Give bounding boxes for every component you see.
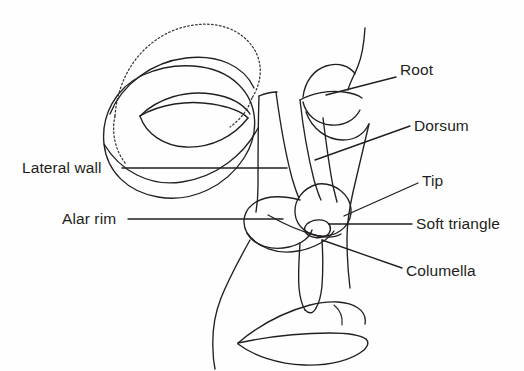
label-lateral-wall: Lateral wall [22,160,102,176]
eye-upper-lid-crease [140,93,250,116]
orbit-outline [104,66,255,198]
label-alar-rim: Alar rim [62,211,116,227]
columella-right-border [316,240,323,308]
soft-triangle-nostril [305,220,331,238]
leader-line-tip [344,183,418,216]
eye-lower-lid-line [140,116,248,147]
far-eye-infraorbital-fold [306,112,369,140]
upper-lip-vermilion-border [238,302,365,343]
label-root: Root [400,62,433,78]
philtrum-lip-tubercle-line [334,305,342,325]
columella-left-border [299,243,305,310]
far-eye-lower-lid [303,102,360,125]
leader-line-dorsum [315,126,410,160]
anatomy-figure: Root Dorsum Tip Soft triangle Columella … [0,0,524,371]
near-cheek-jaw-contour [213,240,250,369]
leader-line-root [326,77,396,95]
orbital-rim-dotted-lateral [114,116,126,164]
label-columella: Columella [406,263,476,279]
anatomy-line-drawing [0,0,524,371]
columella-base [305,308,316,313]
eye-upper-lash-line [140,103,248,119]
nasal-dorsum-ridge-line [323,118,337,202]
lower-lip-vermilion-border [238,339,368,365]
label-dorsum: Dorsum [414,118,469,134]
nasal-root-junction-line [259,92,277,96]
lip-commissure-line [238,333,366,343]
nasal-tip-lobule [295,184,351,236]
infraorbital-contour [104,128,258,183]
label-soft-triangle: Soft triangle [416,216,500,232]
nasal-sidewall-lateral-line [276,92,299,198]
leader-line-columella [322,240,402,268]
forehead-profile-line [348,28,365,90]
nasofacial-groove [256,96,259,212]
far-eye-lash-line [300,91,362,100]
label-tip: Tip [422,173,443,189]
alar-crease-inferior [247,231,334,252]
